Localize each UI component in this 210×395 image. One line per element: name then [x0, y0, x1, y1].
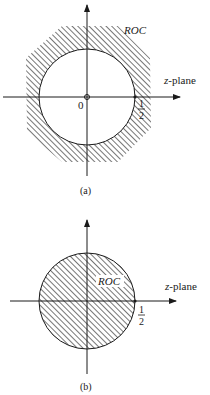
- caption-b: (b): [80, 381, 92, 393]
- tick-half-den-a: 2: [139, 110, 144, 121]
- z-plane-label-a: z-plane: [163, 74, 196, 86]
- roc-label-a: ROC: [123, 24, 147, 36]
- panel-b: ROC z-plane 1 2 (b): [10, 220, 197, 393]
- tick-half-num-a: 1: [139, 98, 144, 109]
- roc-diagrams: ROC z-plane 0 1 2 (a) ROC z-plane 1 2 (b…: [0, 0, 210, 395]
- roc-label-b: ROC: [97, 275, 121, 287]
- origin-label: 0: [78, 99, 84, 111]
- tick-half-den-b: 2: [139, 316, 144, 327]
- zero-point-a: [133, 95, 136, 98]
- panel-a: ROC z-plane 0 1 2 (a): [3, 5, 196, 197]
- roc-region-outside: [26, 26, 151, 162]
- tick-half-num-b: 1: [139, 304, 144, 315]
- caption-a: (a): [80, 185, 91, 197]
- zero-point-b: [133, 299, 136, 302]
- z-plane-label-b: z-plane: [164, 280, 197, 292]
